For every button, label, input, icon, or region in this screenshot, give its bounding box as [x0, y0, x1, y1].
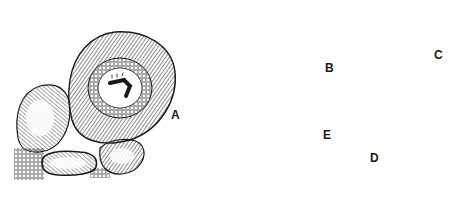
label-e: E	[323, 129, 331, 141]
label-a: A	[171, 109, 180, 121]
caddis-illustration	[0, 0, 463, 202]
label-d: D	[370, 152, 379, 164]
label-c: C	[434, 49, 443, 61]
rock-cluster-drawing	[14, 32, 175, 180]
label-b: B	[325, 62, 334, 74]
